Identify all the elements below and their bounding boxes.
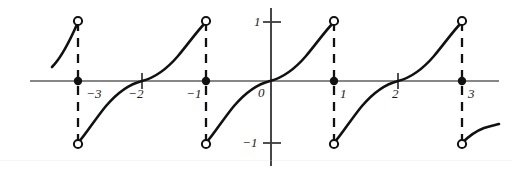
origin-label: 0	[258, 86, 265, 99]
x-tick-label-3: 3	[468, 87, 475, 100]
open-point-neg1-top	[202, 17, 210, 25]
curve-branch-right-partial	[462, 124, 499, 143]
filled-point-3	[458, 77, 466, 85]
scan-artifact-left	[0, 160, 512, 161]
filled-point-neg1	[202, 77, 210, 85]
open-point-1-top	[330, 17, 338, 25]
open-point-3-top	[458, 17, 466, 25]
y-tick-label-1: 1	[254, 15, 261, 28]
graph-figure: −3 −2 −1 1 2 3 0 1 −1	[0, 0, 512, 171]
x-tick-label-neg1: −1	[186, 87, 202, 100]
open-point-1-bottom	[330, 140, 338, 148]
open-point-neg3-top	[74, 17, 82, 25]
open-point-neg3-bottom	[74, 140, 82, 148]
x-tick-label-neg2: −2	[128, 87, 144, 100]
x-tick-label-1: 1	[340, 87, 347, 100]
x-tick-label-neg3: −3	[86, 87, 102, 100]
open-point-neg1-bottom	[202, 140, 210, 148]
curve-branch-neg1-to-1	[206, 22, 334, 143]
filled-point-1	[330, 77, 338, 85]
y-tick-label-neg1: −1	[242, 136, 258, 149]
filled-point-neg3	[74, 77, 82, 85]
open-point-3-bottom	[458, 140, 466, 148]
x-tick-label-2: 2	[392, 87, 399, 100]
curve-branch-left-partial	[52, 22, 78, 67]
